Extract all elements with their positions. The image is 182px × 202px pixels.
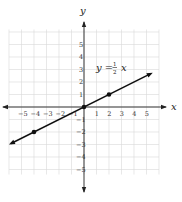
- y-tick-label: −2: [76, 128, 86, 136]
- x-tick-label: 5: [145, 110, 149, 118]
- y-tick-label: −4: [76, 153, 86, 161]
- y-tick-label: −3: [76, 141, 86, 149]
- x-tick-label: 4: [132, 110, 136, 118]
- x-tick-label: 1: [95, 110, 99, 118]
- y-tick-label: 1: [79, 91, 83, 99]
- data-point: [82, 105, 87, 110]
- x-tick-label: 3: [120, 110, 124, 118]
- y-tick-label: −5: [76, 166, 86, 174]
- data-point: [32, 130, 37, 135]
- y-tick-label: −1: [76, 116, 86, 124]
- equation-lhs: y =: [95, 62, 113, 73]
- y-axis-up-arrow-icon: [82, 21, 86, 27]
- equation-numerator: 1: [113, 61, 117, 67]
- y-axis-down-arrow-icon: [82, 187, 86, 193]
- y-axis-label: y: [79, 5, 86, 16]
- line-start-arrow-icon: [9, 140, 15, 145]
- line-end-arrow-icon: [146, 73, 152, 78]
- x-axis-left-arrow-icon: [2, 105, 8, 109]
- y-tick-label: 2: [79, 78, 83, 86]
- x-tick-label: −4: [31, 110, 41, 118]
- y-tick-label: 5: [79, 41, 83, 49]
- data-point: [107, 92, 112, 97]
- y-tick-label: 4: [79, 53, 83, 61]
- y-tick-label: 3: [79, 66, 83, 74]
- x-tick-label: −5: [18, 110, 28, 118]
- coordinate-plane: −5−4−3−2−11234554321−1−2−3−4−5 y x y = 1…: [0, 0, 182, 202]
- equation-denominator: 2: [113, 69, 117, 75]
- x-tick-label: 2: [107, 110, 111, 118]
- equation-var: x: [121, 62, 127, 73]
- x-tick-label: −3: [43, 110, 53, 118]
- equation-label: y = 1 2 x: [95, 61, 127, 75]
- x-axis-label: x: [171, 101, 177, 112]
- x-axis-right-arrow-icon: [161, 105, 167, 109]
